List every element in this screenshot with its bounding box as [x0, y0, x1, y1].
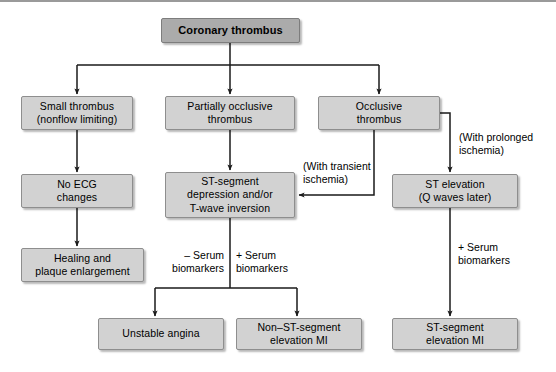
node-unstable-angina[interactable]: Unstable angina [98, 318, 224, 350]
node-st-segment-depression[interactable]: ST-segmentdepression and/orT-wave invers… [165, 172, 295, 218]
node-label: Unstable angina [122, 327, 199, 340]
node-no-ecg-changes[interactable]: No ECGchanges [21, 174, 133, 208]
edge-occlusive-to-stelev [440, 113, 450, 172]
node-healing-plaque-enlargement[interactable]: Healing andplaque enlargement [21, 248, 144, 282]
node-label: ST-segmentdepression and/orT-wave invers… [187, 175, 273, 215]
node-label: Occlusivethrombus [356, 100, 402, 127]
flowchart-canvas: Coronary thrombus Small thrombus(nonflow… [0, 0, 556, 372]
node-label: Coronary thrombus [178, 23, 282, 37]
node-label: Healing andplaque enlargement [35, 252, 130, 279]
node-nstemi[interactable]: Non–ST-segmentelevation MI [236, 318, 362, 350]
node-label: ST-segmentelevation MI [426, 321, 484, 348]
node-st-elevation[interactable]: ST elevation(Q waves later) [392, 174, 518, 208]
edge-label-positive-serum-biomarkers: + Serumbiomarkers [236, 249, 288, 276]
node-occlusive-thrombus[interactable]: Occlusivethrombus [318, 96, 440, 130]
node-small-thrombus[interactable]: Small thrombus(nonflow limiting) [21, 96, 133, 130]
edge-label-with-transient-ischemia: (With transientischemia) [303, 160, 371, 187]
edge-label-negative-serum-biomarkers: – Serumbiomarkers [166, 249, 224, 276]
node-coronary-thrombus[interactable]: Coronary thrombus [161, 18, 300, 43]
node-label: Non–ST-segmentelevation MI [257, 321, 340, 348]
edge-label-positive-serum-biomarkers-stemi: + Serumbiomarkers [458, 241, 510, 268]
node-partially-occlusive-thrombus[interactable]: Partially occlusivethrombus [165, 96, 295, 130]
node-label: Small thrombus(nonflow limiting) [37, 100, 118, 127]
node-stemi[interactable]: ST-segmentelevation MI [392, 318, 518, 350]
node-label: Partially occlusivethrombus [187, 100, 272, 127]
node-label: ST elevation(Q waves later) [419, 178, 492, 205]
edge-label-with-prolonged-ischemia: (With prolongedischemia) [459, 131, 533, 158]
node-label: No ECGchanges [57, 178, 97, 205]
